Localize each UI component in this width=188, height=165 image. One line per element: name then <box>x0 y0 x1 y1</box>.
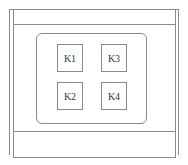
right-outer-edge <box>178 10 179 155</box>
bottom-divider <box>13 131 176 132</box>
key-label: K1 <box>64 53 76 64</box>
outer-panel: K1 K3 K2 K4 <box>0 0 188 165</box>
key-label: K2 <box>64 91 76 102</box>
key-k1[interactable]: K1 <box>57 44 83 72</box>
key-k2[interactable]: K2 <box>57 82 83 110</box>
left-outer-edge <box>9 10 10 155</box>
top-divider <box>13 24 176 25</box>
key-label: K3 <box>108 53 120 64</box>
key-label: K4 <box>108 91 120 102</box>
key-area <box>36 33 147 124</box>
key-k3[interactable]: K3 <box>101 44 127 72</box>
key-k4[interactable]: K4 <box>101 82 127 110</box>
